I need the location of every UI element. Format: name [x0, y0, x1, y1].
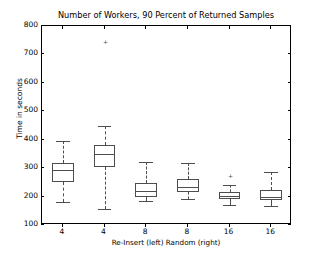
y-tick-mark: [288, 167, 291, 168]
boxplot-figure: Number of Workers, 90 Percent of Returne…: [0, 0, 310, 256]
y-tick-mark: [288, 82, 291, 83]
x-tick-mark: [187, 223, 188, 227]
x-tick-label: 16: [209, 227, 249, 236]
y-tick-mark: [288, 139, 291, 140]
y-tick-mark: [288, 53, 291, 54]
boxplot-iqr-box: [260, 190, 282, 200]
x-tick-mark: [104, 223, 105, 227]
x-tick-mark: [229, 25, 230, 29]
y-tick-mark: [41, 139, 44, 140]
y-tick-label: 400: [10, 135, 38, 143]
x-tick-mark: [62, 223, 63, 227]
y-tick-mark: [288, 224, 291, 225]
plot-area: [41, 25, 291, 224]
y-tick-mark: [41, 25, 44, 26]
y-axis-tick-labels: 100200300400500600700800: [0, 0, 38, 256]
y-tick-mark: [41, 224, 44, 225]
x-tick-mark: [145, 25, 146, 29]
x-tick-label: 8: [125, 227, 165, 236]
y-tick-mark: [41, 53, 44, 54]
x-tick-mark: [145, 223, 146, 227]
x-tick-label: 8: [167, 227, 207, 236]
y-tick-mark: [41, 167, 44, 168]
y-tick-label: 200: [10, 192, 38, 200]
y-tick-label: 300: [10, 163, 38, 171]
x-tick-mark: [270, 25, 271, 29]
chart-title: Number of Workers, 90 Percent of Returne…: [41, 10, 291, 20]
y-tick-label: 100: [10, 220, 38, 228]
x-tick-label: 4: [42, 227, 82, 236]
boxplot-whisker-upper: [271, 172, 272, 190]
y-tick-label: 800: [10, 21, 38, 29]
x-tick-mark: [187, 25, 188, 29]
y-tick-mark: [288, 196, 291, 197]
x-tick-mark: [62, 25, 63, 29]
y-tick-label: 500: [10, 106, 38, 114]
x-tick-label: 16: [250, 227, 290, 236]
y-tick-mark: [288, 110, 291, 111]
x-tick-mark: [104, 25, 105, 29]
boxplot-median-line: [260, 197, 282, 198]
y-tick-mark: [288, 25, 291, 26]
x-tick-mark: [270, 223, 271, 227]
x-axis-label: Re-Insert (left) Random (right): [41, 238, 291, 247]
y-tick-mark: [41, 110, 44, 111]
y-tick-mark: [41, 82, 44, 83]
y-tick-label: 700: [10, 49, 38, 57]
boxplot-cap-lower: [264, 206, 277, 207]
y-tick-mark: [41, 196, 44, 197]
x-tick-mark: [229, 223, 230, 227]
boxplot-box: [42, 26, 290, 223]
boxplot-series: [42, 26, 290, 223]
boxplot-cap-upper: [264, 172, 277, 173]
y-tick-label: 600: [10, 78, 38, 86]
x-tick-label: 4: [84, 227, 124, 236]
